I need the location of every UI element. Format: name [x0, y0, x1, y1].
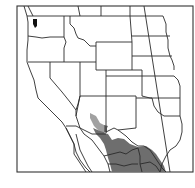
- map-svg: [0, 0, 195, 188]
- range-map: [0, 0, 195, 188]
- map-frame: [17, 6, 193, 172]
